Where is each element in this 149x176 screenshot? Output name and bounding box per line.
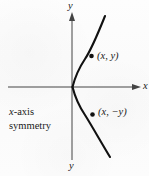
y-axis-label-bottom: y	[69, 160, 74, 172]
y-axis-label-top: y	[68, 0, 73, 12]
point-marker-upper	[89, 54, 94, 59]
graph-canvas	[0, 0, 149, 176]
point-marker-lower	[90, 112, 95, 117]
x-axis-arrowhead	[132, 84, 141, 90]
caption-line-1-rest: -axis	[14, 106, 34, 117]
point-label-lower: (x, −y)	[98, 106, 127, 118]
curve-lower-branch	[73, 87, 111, 157]
figure-container: y y x (x, y) (x, −y) x-axis symmetry	[0, 0, 149, 176]
point-label-upper: (x, y)	[97, 50, 119, 62]
x-axis-label-right: x	[143, 80, 148, 92]
caption-line-1: x-axis	[9, 105, 51, 119]
caption-line-2: symmetry	[9, 119, 51, 133]
y-axis-arrowhead	[69, 12, 75, 21]
symmetry-caption: x-axis symmetry	[9, 105, 51, 133]
